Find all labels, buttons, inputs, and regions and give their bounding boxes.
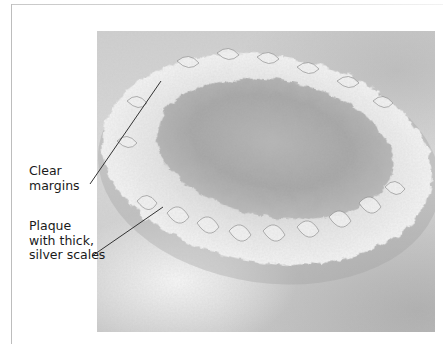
frame-top-border [11,4,443,5]
label-line: margins [29,179,80,194]
frame-left-border [11,4,12,344]
plaque-illustration-icon [97,31,435,332]
label-line: silver scales [29,248,105,263]
label-line: with thick, [29,234,105,249]
label-plaque-scales: Plaque with thick, silver scales [29,219,105,263]
lesion-photo [97,31,435,332]
label-clear-margins: Clear margins [29,164,80,193]
label-line: Clear [29,164,80,179]
label-line: Plaque [29,219,105,234]
